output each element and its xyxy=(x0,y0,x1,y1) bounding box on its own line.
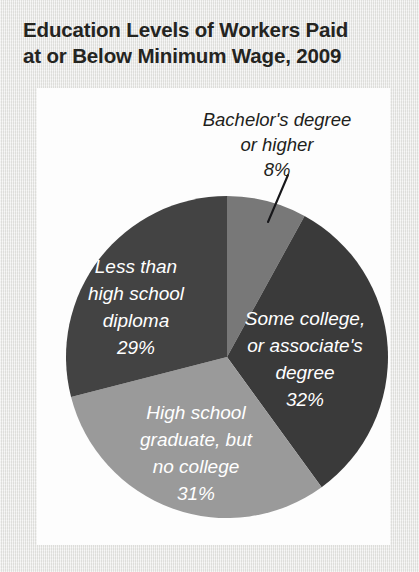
chart-card xyxy=(37,88,390,545)
title-line-2: at or Below Minimum Wage, 2009 xyxy=(23,43,401,69)
page-title: Education Levels of Workers Paid at or B… xyxy=(23,17,401,69)
title-line-1: Education Levels of Workers Paid xyxy=(23,17,401,43)
chart-page: Education Levels of Workers Paid at or B… xyxy=(0,0,419,572)
